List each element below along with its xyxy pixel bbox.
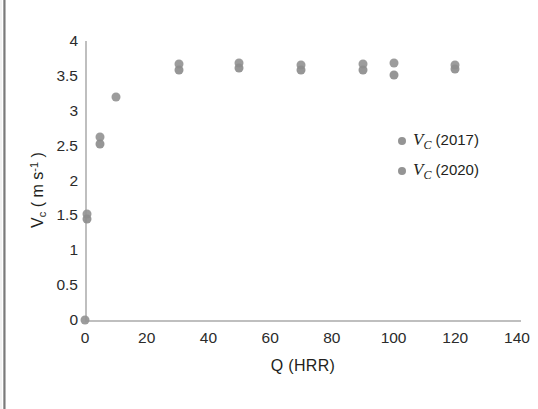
data-point: [81, 316, 90, 325]
x-tick-label: 100: [381, 330, 407, 346]
legend: VC (2017)VC (2020): [398, 126, 528, 186]
data-point: [82, 214, 91, 223]
x-tick-label: 40: [200, 330, 217, 346]
legend-marker-icon: [398, 137, 406, 145]
legend-marker-icon: [398, 167, 406, 175]
data-point: [389, 59, 398, 68]
scatter-chart: 00.511.522.533.54 020406080100120140 Q (…: [0, 0, 538, 409]
data-point: [96, 139, 105, 148]
data-point: [389, 71, 398, 80]
y-tick-label: 4: [0, 33, 78, 49]
legend-item-label: VC (2017): [413, 130, 479, 153]
data-point: [111, 92, 120, 101]
y-axis-title-symbol: V: [29, 217, 46, 228]
x-axis-title: Q (HRR): [85, 357, 521, 375]
x-tick-label: 80: [323, 330, 340, 346]
data-point: [235, 63, 244, 72]
x-tick-label: 60: [262, 330, 279, 346]
x-tick-label: 20: [138, 330, 155, 346]
legend-item-label: VC (2020): [413, 160, 479, 183]
data-point: [451, 64, 460, 73]
y-axis-title-subscript: c: [36, 212, 48, 218]
y-axis-line: [85, 41, 87, 320]
legend-item: VC (2017): [398, 126, 528, 156]
y-tick-label: 0: [0, 312, 78, 328]
x-tick-label: 0: [81, 330, 90, 346]
y-axis-title-unit: ( m s: [29, 172, 46, 212]
data-point: [358, 66, 367, 75]
data-point: [297, 65, 306, 74]
x-tick-label: 140: [504, 330, 530, 346]
data-point: [175, 65, 184, 74]
x-axis-tick-labels: 020406080100120140: [0, 330, 538, 350]
x-tick-label: 120: [442, 330, 468, 346]
x-axis-line: [85, 320, 521, 322]
y-axis-title: Vc ( m s-1 ): [28, 90, 48, 290]
y-axis-title-superscript: -1: [28, 162, 40, 172]
legend-item: VC (2020): [398, 156, 528, 186]
y-axis-title-unit-close: ): [29, 152, 46, 162]
y-tick-label: 3.5: [0, 68, 78, 84]
